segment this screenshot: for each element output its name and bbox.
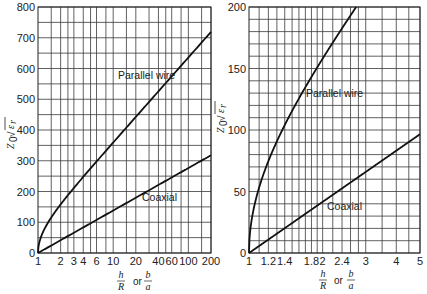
right-coaxial-label: Coaxial (327, 200, 362, 212)
svg-text:or: or (133, 276, 143, 287)
chart-left-full-range: 0100200300400500600700800 12346102040601… (5, 1, 220, 292)
y-tick-label: 100 (228, 124, 246, 136)
left-y-tick-labels: 0100200300400500600700800 (17, 1, 35, 259)
svg-text:ε: ε (215, 109, 226, 113)
svg-text:Z: Z (5, 143, 16, 149)
y-tick-label: 500 (17, 93, 35, 105)
left-curves (38, 32, 211, 253)
svg-text:√: √ (216, 115, 227, 121)
svg-text:or: or (334, 275, 344, 286)
y-tick-label: 600 (17, 63, 35, 75)
x-tick-label: 1 (246, 255, 252, 267)
x-tick-label: 6 (93, 255, 99, 267)
y-tick-label: 150 (228, 63, 246, 75)
x-tick-label: 2.4 (334, 255, 349, 267)
svg-text:h: h (321, 268, 326, 279)
x-tick-label: 3 (71, 255, 77, 267)
svg-text:b: b (146, 269, 151, 280)
x-tick-label: 100 (179, 255, 197, 267)
x-tick-label: 5 (417, 255, 423, 267)
y-tick-label: 200 (17, 186, 35, 198)
x-tick-label: 1.4 (277, 255, 292, 267)
svg-text:a: a (146, 281, 151, 292)
x-tick-label: 20 (130, 255, 142, 267)
x-tick-label: 1.8 (304, 255, 319, 267)
x-tick-label: 1.2 (261, 255, 276, 267)
right-y-tick-labels: 050100150200 (228, 1, 246, 259)
y-tick-label: 800 (17, 1, 35, 13)
left-x-axis-label: h R or b a (117, 269, 152, 292)
x-tick-label: 3 (363, 255, 369, 267)
x-tick-label: 2 (58, 255, 64, 267)
svg-text:R: R (319, 280, 326, 291)
y-tick-label: 100 (17, 216, 35, 228)
x-tick-label: 200 (202, 255, 220, 267)
right-x-tick-labels: 11.21.41.822.4345 (246, 255, 423, 267)
x-tick-label: 10 (107, 255, 119, 267)
coaxial-curve (38, 155, 211, 253)
y-tick-label: 200 (228, 1, 246, 13)
svg-text:h: h (119, 269, 124, 280)
impedance-charts: 0100200300400500600700800 12346102040601… (0, 0, 427, 294)
coaxial-curve (249, 134, 420, 253)
right-grid (249, 7, 420, 253)
svg-text:ε: ε (5, 125, 16, 129)
x-tick-label: 4 (393, 255, 399, 267)
left-x-tick-labels: 1234610204060100200 (35, 255, 220, 267)
y-tick-label: 400 (17, 124, 35, 136)
svg-text:b: b (349, 268, 354, 279)
right-x-axis-label: h R or b a (319, 268, 355, 291)
left-coaxial-label: Coaxial (142, 191, 177, 203)
svg-text:a: a (349, 280, 354, 291)
y-tick-label: 300 (17, 155, 35, 167)
x-tick-label: 40 (152, 255, 164, 267)
y-tick-label: 700 (17, 32, 35, 44)
x-tick-label: 2 (320, 255, 326, 267)
y-tick-label: 50 (234, 186, 246, 198)
x-tick-label: 60 (166, 255, 178, 267)
parallel-wire-curve (38, 32, 211, 253)
svg-text:√: √ (6, 131, 17, 137)
left-parallel-wire-label: Parallel wire (118, 69, 175, 81)
svg-text:Z: Z (215, 127, 226, 133)
svg-text:r: r (7, 120, 18, 124)
x-tick-label: 4 (80, 255, 86, 267)
svg-text:r: r (217, 104, 228, 108)
left-y-axis-label: Z 0 √ ε r (5, 117, 19, 149)
svg-text:R: R (117, 281, 124, 292)
right-parallel-wire-label: Parallel wire (306, 87, 363, 99)
x-tick-label: 1 (35, 255, 41, 267)
chart-right-zoomed-range: 050100150200 11.21.41.822.4345 Parallel … (215, 1, 423, 291)
